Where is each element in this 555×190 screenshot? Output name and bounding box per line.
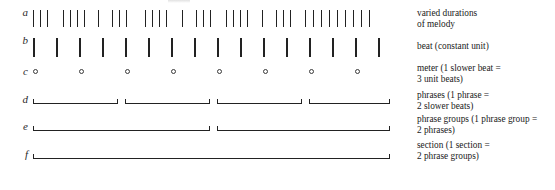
caption-line: 2 phrase groups) (417, 151, 555, 162)
music-hierarchy-diagram: avaried durationsof melodybbeat (constan… (0, 0, 555, 190)
bracket-cap-right (389, 154, 390, 159)
caption-line: section (1 section = (417, 140, 555, 151)
span-bracket (33, 152, 390, 159)
bracket-bar (33, 158, 390, 159)
caption-f: section (1 section =2 phrase groups) (417, 140, 555, 162)
